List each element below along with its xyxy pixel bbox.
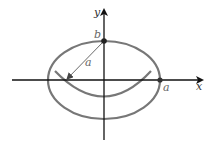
x-axis-label: x <box>196 80 203 93</box>
point-b <box>101 38 107 44</box>
radius-label: a <box>85 56 92 69</box>
parabola-arc <box>55 71 151 97</box>
diagram-canvas: y x b a a <box>0 0 218 143</box>
y-axis-label: y <box>93 6 101 19</box>
point-a-label: a <box>163 81 170 94</box>
point-a <box>157 77 162 82</box>
point-b-label: b <box>94 28 101 41</box>
